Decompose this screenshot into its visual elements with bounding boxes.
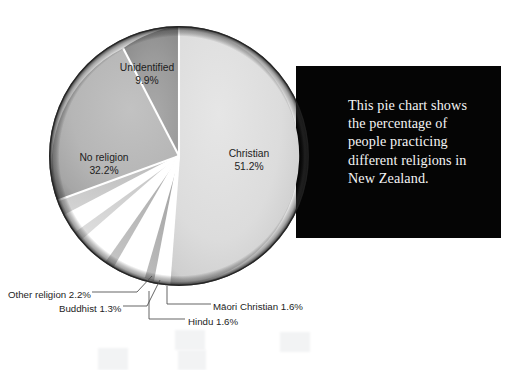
- slice-label-christian-value: 51.2%: [213, 161, 285, 174]
- callout-label-hindu: Hindu 1.6%: [188, 316, 238, 327]
- slice-label-no-religion-name: No religion: [64, 152, 144, 165]
- caption-text: This pie chart shows the percentage of p…: [348, 96, 483, 187]
- slice-label-christian-name: Christian: [213, 148, 285, 161]
- callout-label-maori-christian: Māori Christian 1.6%: [213, 301, 303, 312]
- slice-label-no-religion-value: 32.2%: [64, 165, 144, 178]
- callout-label-other-religion: Other religion 2.2%: [8, 289, 91, 300]
- scan-artifact-block: [280, 332, 310, 352]
- slice-label-no-religion: No religion 32.2%: [64, 152, 144, 177]
- slice-label-christian: Christian 51.2%: [213, 148, 285, 173]
- slice-label-unidentified-name: Unidentified: [108, 62, 186, 75]
- scan-artifact-block: [98, 348, 128, 370]
- pie-chart-figure: Unidentified 9.9% Christian 51.2% No rel…: [0, 0, 524, 370]
- slice-label-unidentified: Unidentified 9.9%: [108, 62, 186, 87]
- scan-artifact-block: [178, 350, 206, 370]
- slice-label-unidentified-value: 9.9%: [108, 75, 186, 88]
- leader-line-hindu: [149, 291, 185, 319]
- scan-artifact-block: [175, 330, 205, 350]
- leader-line-maori-christian: [167, 286, 211, 304]
- callout-label-buddhist: Buddhist 1.3%: [59, 303, 121, 314]
